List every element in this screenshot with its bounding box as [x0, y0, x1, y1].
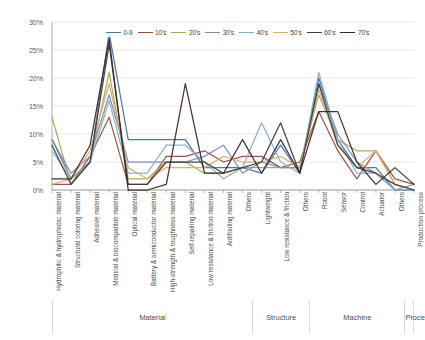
x-axis-category-label: Sensor [340, 190, 347, 298]
x-axis-category-label: Low resistance & friction material [207, 190, 214, 298]
x-axis-category-label: Others [302, 190, 309, 298]
y-axis-tick-label: 20% [29, 74, 43, 83]
x-axis-group-cell: Machine [309, 300, 404, 334]
legend-color-swatch [340, 32, 355, 34]
legend-color-swatch [239, 32, 254, 34]
series-lines [52, 22, 414, 190]
x-axis-category-label: Optical material [131, 190, 138, 298]
legend-color-swatch [307, 32, 322, 34]
y-axis-tick-label: 0% [33, 186, 43, 195]
legend-label: 20's [189, 29, 200, 36]
legend-label: 10's [155, 29, 166, 36]
legend-label: 40's [256, 29, 267, 36]
y-axis-tick-label: 5% [33, 158, 43, 167]
line-chart: 0%5%10%15%20%25%30% 0-910's20's30's40's5… [0, 0, 425, 340]
y-axis: 0%5%10%15%20%25%30% [0, 22, 48, 190]
legend-item[interactable]: 40's [239, 29, 268, 36]
legend-color-swatch [171, 32, 186, 34]
x-axis-category-label: Low resistance & friction [283, 190, 290, 298]
x-axis-group-cell: Material [52, 300, 252, 334]
legend-label: 70's [358, 29, 369, 36]
x-axis-group-label: Material [53, 313, 252, 322]
x-axis-group-cell: Structure [252, 300, 309, 334]
x-axis-group-label: Structure [253, 313, 309, 322]
plot-area [52, 22, 414, 190]
x-axis-category-label: Structural coloring material [74, 190, 81, 298]
legend-label: 0-9 [124, 29, 133, 36]
x-axis-category-label: High-strength & toughness material [169, 190, 176, 298]
legend-item[interactable]: 70's [340, 29, 369, 36]
series-line-20-s [52, 72, 414, 190]
y-axis-tick-label: 25% [29, 46, 43, 55]
x-axis-category-label: Antifouling material [226, 190, 233, 298]
legend-item[interactable]: 0-9 [106, 29, 133, 36]
legend-color-swatch [273, 32, 288, 34]
x-axis-group-cell: Process [404, 300, 414, 334]
legend-item[interactable]: 60's [307, 29, 336, 36]
legend-color-swatch [205, 32, 220, 34]
x-axis-group-label: Process [405, 313, 413, 322]
x-axis-category-label: Others [245, 190, 252, 298]
x-axis-category-label: Control [359, 190, 366, 298]
x-axis-category-label: Lightweight [264, 190, 271, 298]
x-axis-category-label: Production process [417, 190, 424, 298]
legend-item[interactable]: 10's [138, 29, 167, 36]
legend-item[interactable]: 20's [171, 29, 200, 36]
x-axis-group-band: MaterialStructureMachineProcess [52, 300, 414, 334]
legend-item[interactable]: 50's [273, 29, 302, 36]
x-axis-category-label: Hydrophilic & hydrophobic material [55, 190, 62, 298]
legend: 0-910's20's30's40's50's60's70's [104, 28, 371, 37]
legend-label: 30's [223, 29, 234, 36]
y-axis-tick-label: 15% [29, 102, 43, 111]
y-axis-tick-label: 30% [29, 18, 43, 27]
legend-label: 50's [290, 29, 301, 36]
legend-item[interactable]: 30's [205, 29, 234, 36]
x-axis-category-label: Robot [321, 190, 328, 298]
x-axis-category-label: Medical & biocompatible material [112, 190, 119, 298]
legend-label: 60's [324, 29, 335, 36]
x-axis-category-label: Others [398, 190, 405, 298]
x-axis-category-label: Actuator [378, 190, 385, 298]
series-line-40-s [52, 72, 414, 190]
legend-color-swatch [106, 32, 121, 34]
y-axis-tick-label: 10% [29, 130, 43, 139]
x-axis-group-label: Machine [310, 313, 404, 322]
x-axis-category-label: Adhesive material [93, 190, 100, 298]
x-axis-labels: Hydrophilic & hydrophobic materialStruct… [52, 190, 414, 298]
x-axis-category-label: Self-repairing material [188, 190, 195, 298]
legend-color-swatch [138, 32, 153, 34]
x-axis-category-label: Battery & semiconductor material [150, 190, 157, 298]
